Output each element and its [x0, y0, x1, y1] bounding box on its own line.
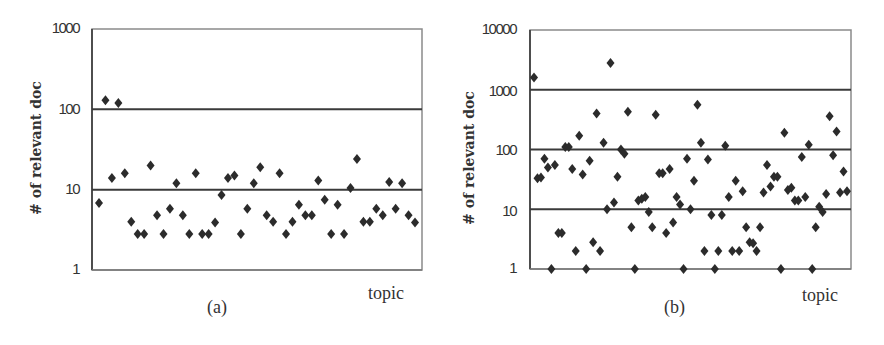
data-point-diamond-icon [732, 176, 740, 186]
data-point-diamond-icon [308, 210, 316, 220]
data-point-diamond-icon [101, 95, 109, 105]
data-point-diamond-icon [379, 210, 387, 220]
data-point-diamond-icon [613, 172, 621, 182]
caption-b: (b) [664, 297, 685, 318]
data-point-diamond-icon [243, 204, 251, 214]
data-point-diamond-icon [652, 110, 660, 120]
data-point-diamond-icon [321, 195, 329, 205]
data-point-diamond-icon [693, 100, 701, 110]
data-point-diamond-icon [680, 264, 688, 274]
data-point-diamond-icon [777, 264, 785, 274]
data-point-diamond-icon [568, 164, 576, 174]
data-point-diamond-icon [385, 177, 393, 187]
data-point-diamond-icon [843, 186, 851, 196]
data-point-diamond-icon [836, 188, 844, 198]
data-point-diamond-icon [683, 154, 691, 164]
data-point-diamond-icon [725, 192, 733, 202]
data-point-diamond-icon [547, 264, 555, 274]
data-point-diamond-icon [340, 229, 348, 239]
data-point-diamond-icon [631, 264, 639, 274]
data-point-diamond-icon [808, 264, 816, 274]
data-point-diamond-icon [114, 98, 122, 108]
data-point-diamond-icon [600, 138, 608, 148]
data-point-diamond-icon [127, 217, 135, 227]
data-point-diamond-icon [780, 128, 788, 138]
data-point-diamond-icon [756, 222, 764, 232]
x-axis-label-b: topic [802, 285, 838, 306]
data-point-diamond-icon [700, 246, 708, 256]
data-point-diamond-icon [250, 178, 258, 188]
data-point-diamond-icon [314, 176, 322, 186]
data-point-diamond-icon [666, 164, 674, 174]
data-point-diamond-icon [714, 246, 722, 256]
data-point-diamond-icon [648, 222, 656, 232]
data-point-diamond-icon [707, 210, 715, 220]
data-point-diamond-icon [185, 229, 193, 239]
data-point-diamond-icon [742, 222, 750, 232]
data-point-diamond-icon [334, 200, 342, 210]
data-point-diamond-icon [627, 222, 635, 232]
data-point-diamond-icon [572, 246, 580, 256]
data-point-diamond-icon [704, 155, 712, 165]
chart-panel-b: # of relevant doc 10000 1000 100 10 1 to… [440, 0, 884, 345]
data-point-diamond-icon [224, 173, 232, 183]
data-point-diamond-icon [166, 204, 174, 214]
data-point-diamond-icon [405, 210, 413, 220]
data-point-diamond-icon [147, 160, 155, 170]
data-point-diamond-icon [760, 188, 768, 198]
data-point-diamond-icon [347, 183, 355, 193]
data-point-diamond-icon [582, 264, 590, 274]
data-point-diamond-icon [753, 246, 761, 256]
data-point-diamond-icon [766, 182, 774, 192]
data-point-diamond-icon [826, 111, 834, 121]
data-point-diamond-icon [295, 200, 303, 210]
data-point-diamond-icon [840, 166, 848, 176]
data-point-diamond-icon [763, 160, 771, 170]
data-point-diamond-icon [589, 237, 597, 247]
data-point-diamond-icon [327, 229, 335, 239]
data-point-diamond-icon [822, 189, 830, 199]
x-axis-label-a: topic [368, 283, 404, 304]
data-point-diamond-icon [805, 140, 813, 150]
data-point-diamond-icon [218, 190, 226, 200]
data-point-diamond-icon [544, 162, 552, 172]
data-point-diamond-icon [353, 154, 361, 164]
data-point-diamond-icon [607, 58, 615, 68]
data-point-diamond-icon [603, 204, 611, 214]
data-point-diamond-icon [282, 229, 290, 239]
data-point-diamond-icon [392, 204, 400, 214]
data-point-diamond-icon [205, 229, 213, 239]
data-point-diamond-icon [610, 197, 618, 207]
data-point-diamond-icon [211, 218, 219, 228]
data-point-diamond-icon [728, 246, 736, 256]
data-point-diamond-icon [95, 198, 103, 208]
data-point-diamond-icon [398, 178, 406, 188]
data-point-diamond-icon [798, 152, 806, 162]
data-point-diamond-icon [551, 160, 559, 170]
data-point-diamond-icon [697, 138, 705, 148]
data-point-diamond-icon [179, 210, 187, 220]
data-point-diamond-icon [153, 210, 161, 220]
data-point-diamond-icon [108, 173, 116, 183]
data-point-diamond-icon [801, 192, 809, 202]
data-point-diamond-icon [624, 107, 632, 117]
data-point-diamond-icon [579, 170, 587, 180]
data-point-diamond-icon [833, 127, 841, 137]
data-point-diamond-icon [256, 162, 264, 172]
data-point-diamond-icon [718, 210, 726, 220]
data-point-diamond-icon [140, 229, 148, 239]
data-point-diamond-icon [263, 210, 271, 220]
data-point-diamond-icon [288, 217, 296, 227]
data-point-diamond-icon [687, 204, 695, 214]
data-point-diamond-icon [237, 229, 245, 239]
data-point-diamond-icon [586, 156, 594, 166]
data-point-diamond-icon [669, 218, 677, 228]
data-point-diamond-icon [192, 168, 200, 178]
data-point-diamond-icon [540, 154, 548, 164]
data-point-diamond-icon [530, 73, 538, 83]
data-point-diamond-icon [230, 171, 238, 181]
data-point-diamond-icon [276, 168, 284, 178]
data-point-diamond-icon [735, 246, 743, 256]
data-point-diamond-icon [159, 229, 167, 239]
data-point-diamond-icon [662, 228, 670, 238]
